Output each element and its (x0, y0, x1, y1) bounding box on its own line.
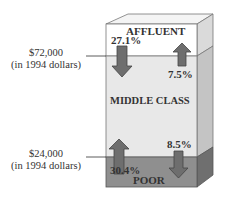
threshold-amount: $24,000 (2, 148, 90, 160)
flow-value-poor-to-middle: 30.4% (110, 164, 140, 176)
flow-value-middle-to-poor: 8.5% (167, 138, 192, 150)
flow-value-middle-to-affluent: 7.5% (168, 68, 193, 80)
flow-value-affluent-to-middle: 27.1% (111, 34, 141, 46)
side-middle (197, 46, 213, 157)
threshold-note: (in 1994 dollars) (2, 59, 90, 71)
threshold-amount: $72,000 (2, 47, 90, 59)
threshold-note: (in 1994 dollars) (2, 160, 90, 172)
threshold-label-72000: $72,000 (in 1994 dollars) (2, 47, 90, 71)
band-label-middle: MIDDLE CLASS (110, 95, 190, 106)
threshold-label-24000: $24,000 (in 1994 dollars) (2, 148, 90, 172)
box-top-face (106, 14, 213, 24)
